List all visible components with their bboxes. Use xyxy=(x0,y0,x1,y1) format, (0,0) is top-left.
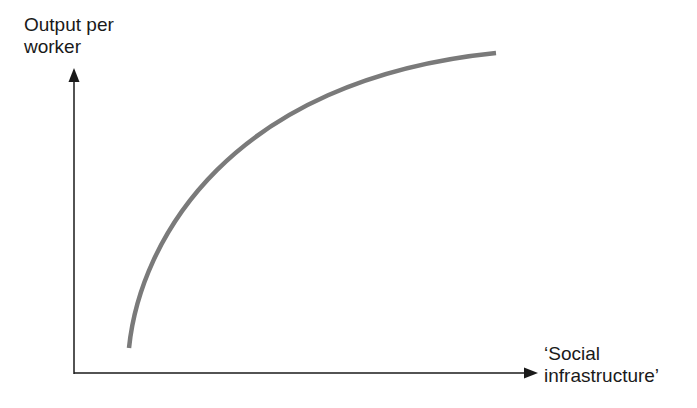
x-axis-arrow-icon xyxy=(524,368,538,379)
x-axis-label-line-2: infrastructure’ xyxy=(544,365,659,387)
output-curve xyxy=(129,53,496,348)
x-axis-label-line-1: ‘Social xyxy=(544,343,659,365)
x-axis-label: ‘Social infrastructure’ xyxy=(544,343,659,387)
y-axis-label-line-1: Output per xyxy=(24,14,114,36)
y-axis-arrow-icon xyxy=(69,68,80,82)
y-axis-label-line-2: worker xyxy=(24,36,114,58)
y-axis-label: Output per worker xyxy=(24,14,114,58)
